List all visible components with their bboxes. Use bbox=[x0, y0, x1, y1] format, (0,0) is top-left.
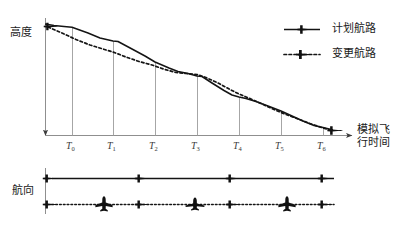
planned-heading-airplane-icon-3 bbox=[226, 174, 241, 182]
y-axis-label: 高度 bbox=[10, 27, 32, 39]
legend-planned-route bbox=[284, 25, 320, 33]
legend-changed-airplane-icon bbox=[296, 50, 313, 59]
planned-heading-airplane-icon-2 bbox=[135, 174, 150, 182]
gridlines bbox=[73, 27, 324, 136]
figure-canvas bbox=[0, 0, 404, 235]
tick-label-t3-base: T bbox=[191, 140, 197, 151]
tick-label-t4-sub: 4 bbox=[239, 145, 242, 152]
tick-label-t2-base: T bbox=[149, 140, 155, 151]
tick-label-t2: T2 bbox=[149, 141, 158, 152]
tick-label-t4-base: T bbox=[233, 140, 239, 151]
legend-planned-airplane-icon bbox=[297, 25, 313, 33]
tick-label-t4: T4 bbox=[233, 141, 242, 152]
tick-label-t6: T6 bbox=[317, 141, 326, 152]
x-axis-label-line2: 行时间 bbox=[357, 137, 390, 149]
changed-heading-airplane-icon-5 bbox=[226, 200, 241, 208]
flight-route-figure: 高度 模拟飞 行时间 T0 T1 T2 T3 T4 T5 T6 计划航路 变更航… bbox=[0, 0, 404, 235]
x-axis-label-line1: 模拟飞 bbox=[357, 124, 390, 136]
changed-route-line bbox=[48, 27, 330, 130]
tick-label-t5: T5 bbox=[275, 141, 284, 152]
tick-label-t2-sub: 2 bbox=[155, 145, 158, 152]
tick-label-t0-base: T bbox=[66, 140, 72, 151]
tick-label-t1-base: T bbox=[107, 140, 113, 151]
tick-label-t3: T3 bbox=[191, 141, 200, 152]
tick-label-t1-sub: 1 bbox=[113, 145, 116, 152]
airplane-marker-end bbox=[327, 126, 343, 134]
tick-label-t0: T0 bbox=[66, 141, 75, 152]
tick-label-t6-base: T bbox=[317, 140, 323, 151]
heading-section-label: 航向 bbox=[12, 185, 34, 197]
changed-heading-airplane-icon-3 bbox=[135, 200, 150, 208]
changed-heading-track bbox=[43, 196, 334, 211]
tick-label-t5-base: T bbox=[275, 140, 281, 151]
legend-changed-route bbox=[284, 50, 320, 59]
tick-label-t6-sub: 6 bbox=[323, 145, 326, 152]
tick-label-t0-sub: 0 bbox=[72, 145, 75, 152]
planned-route-line bbox=[45, 24, 333, 130]
legend-label-planned: 计划航路 bbox=[332, 23, 376, 35]
planned-heading-track bbox=[43, 174, 334, 182]
legend-label-changed: 变更航路 bbox=[332, 48, 376, 60]
changed-heading-airplane-icon-7 bbox=[318, 200, 333, 208]
tick-label-t5-sub: 5 bbox=[281, 145, 284, 152]
tick-label-t1: T1 bbox=[107, 141, 116, 152]
planned-heading-airplane-icon-4 bbox=[318, 174, 333, 182]
tick-label-t3-sub: 3 bbox=[197, 145, 200, 152]
